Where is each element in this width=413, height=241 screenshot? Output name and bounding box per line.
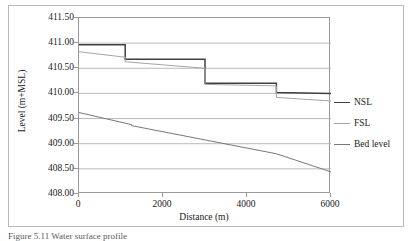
x-tick-mark <box>246 193 247 197</box>
legend-label: Bed level <box>354 139 390 150</box>
legend-label: NSL <box>354 97 372 108</box>
x-tick-label: 6000 <box>300 199 360 210</box>
x-axis-title: Distance (m) <box>78 212 330 222</box>
chart-legend: NSLFSLBed level <box>334 92 408 155</box>
y-tick-label: 411.00 <box>20 37 74 47</box>
plot-svg <box>79 18 331 194</box>
y-axis-tick-labels: 408.00408.50409.00409.50410.00410.50411.… <box>20 17 74 193</box>
legend-label: FSL <box>354 118 370 129</box>
y-tick-mark <box>74 92 78 93</box>
y-tick-mark <box>74 17 78 18</box>
legend-item: FSL <box>334 113 408 134</box>
x-tick-label: 0 <box>48 199 108 210</box>
y-tick-label: 408.50 <box>20 163 74 173</box>
y-tick-mark <box>74 42 78 43</box>
y-tick-mark <box>74 168 78 169</box>
legend-item: NSL <box>334 92 408 113</box>
figure-root: Level (m+MSL) 408.00408.50409.00409.5041… <box>0 0 413 241</box>
x-tick-mark <box>78 193 79 197</box>
y-tick-label: 409.00 <box>20 138 74 148</box>
legend-swatch-line-icon <box>334 102 350 103</box>
y-tick-label: 410.50 <box>20 62 74 72</box>
series-paths <box>79 45 331 172</box>
y-tick-label: 408.00 <box>20 188 74 198</box>
legend-swatch-line-icon <box>334 144 350 145</box>
y-tick-label: 410.00 <box>20 87 74 97</box>
x-tick-label: 4000 <box>216 199 276 210</box>
series-line-bed-level <box>79 113 331 172</box>
y-tick-mark <box>74 118 78 119</box>
plot-area <box>78 17 330 193</box>
y-tick-label: 409.50 <box>20 113 74 123</box>
legend-swatch-line-icon <box>334 123 350 124</box>
x-tick-mark <box>162 193 163 197</box>
y-tick-mark <box>74 143 78 144</box>
figure-caption: Figure 5.11 Water surface profile <box>8 231 404 241</box>
y-tick-mark <box>74 67 78 68</box>
legend-item: Bed level <box>334 134 408 155</box>
y-tick-label: 411.50 <box>20 12 74 22</box>
x-tick-label: 2000 <box>132 199 192 210</box>
x-tick-mark <box>330 193 331 197</box>
